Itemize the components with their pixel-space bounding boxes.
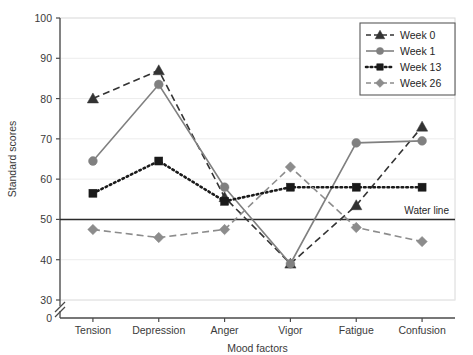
data-point: [154, 80, 163, 89]
x-tick-label-vigor: Vigor: [278, 324, 303, 336]
y-tick-label: 60: [40, 173, 52, 185]
line-chart: 030405060708090100TensionDepressionAnger…: [0, 0, 473, 355]
x-tick-label-confusion: Confusion: [398, 324, 445, 336]
data-point: [155, 157, 163, 165]
data-point: [352, 138, 361, 147]
x-tick-label-fatigue: Fatigue: [339, 324, 374, 336]
y-tick-label: 100: [34, 12, 52, 24]
data-point: [220, 183, 229, 192]
y-tick-label: 30: [40, 294, 52, 306]
y-tick-label: 80: [40, 93, 52, 105]
water-line-label: Water line: [404, 205, 449, 216]
y-tick-label: 50: [40, 213, 52, 225]
legend-label-week-13: Week 13: [400, 61, 441, 73]
data-point: [352, 183, 360, 191]
data-point: [418, 183, 426, 191]
legend: Week 0Week 1Week 13Week 26: [360, 23, 455, 95]
chart-container: 030405060708090100TensionDepressionAnger…: [0, 0, 473, 355]
marker-circle: [376, 47, 383, 54]
x-axis-title: Mood factors: [227, 342, 288, 354]
legend-label-week-1: Week 1: [400, 45, 436, 57]
y-tick-label: 40: [40, 254, 52, 266]
x-tick-label-depression: Depression: [132, 324, 185, 336]
data-point: [221, 197, 229, 205]
data-point: [286, 183, 294, 191]
y-tick-label: 90: [40, 52, 52, 64]
legend-label-week-0: Week 0: [400, 29, 436, 41]
data-point: [418, 136, 427, 145]
marker-square: [377, 64, 383, 70]
y-tick-label: 0: [46, 312, 52, 324]
data-point: [89, 157, 98, 166]
data-point: [89, 189, 97, 197]
y-axis-title: Standard scores: [6, 121, 18, 197]
legend-label-week-26: Week 26: [400, 77, 441, 89]
x-tick-label-anger: Anger: [211, 324, 240, 336]
data-point: [286, 259, 295, 268]
y-tick-label: 70: [40, 133, 52, 145]
x-tick-label-tension: Tension: [75, 324, 111, 336]
